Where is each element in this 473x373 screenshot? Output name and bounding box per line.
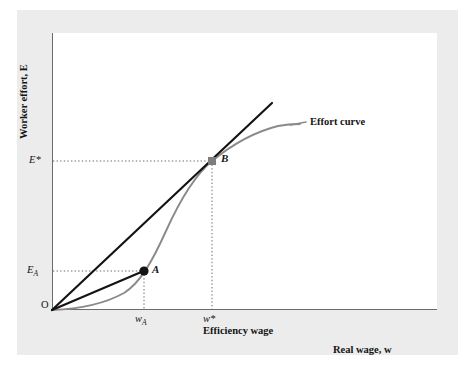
effort-curve-label: Effort curve <box>310 116 365 127</box>
data-point-A <box>139 266 148 275</box>
effort-curve-path <box>52 124 300 310</box>
origin-label: O <box>41 299 49 310</box>
y-tick-e-a-sub: A <box>33 269 38 278</box>
y-tick-label-e-star: E* <box>29 154 41 165</box>
x-axis-label-inner: Efficiency wage <box>203 325 273 336</box>
x-axis-label-outer: Real wage, w <box>333 344 392 355</box>
plot-canvas <box>0 0 473 373</box>
point-label-a: A <box>152 263 159 275</box>
x-tick-w-star-sup: * <box>210 313 215 324</box>
x-tick-w-star-main: w <box>203 313 210 324</box>
x-tick-label-w-star: w* <box>203 313 215 324</box>
y-axis-label: Worker effort, E <box>18 42 29 162</box>
y-tick-label-e-a: EA <box>27 264 38 278</box>
y-tick-e-star-sup: * <box>35 154 40 165</box>
data-point-B <box>208 157 216 165</box>
x-tick-w-a-main: w <box>135 313 142 324</box>
tangent-ray-through-B <box>52 103 272 310</box>
x-tick-w-a-sub: A <box>142 318 147 327</box>
effort-curve-figure: Worker effort, E Efficiency wage Real wa… <box>0 0 473 373</box>
x-tick-label-w-a: wA <box>135 313 147 327</box>
point-label-b: B <box>221 152 228 164</box>
